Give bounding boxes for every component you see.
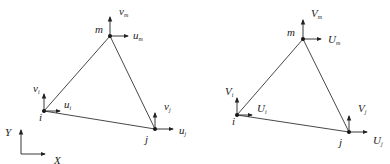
node-i-label: i xyxy=(232,115,235,127)
u-j-label: uj xyxy=(179,124,187,137)
node-j-label: j xyxy=(143,133,148,145)
u-m-label: um xyxy=(133,29,144,42)
v-m-label: vm xyxy=(119,5,129,18)
triangle-edges xyxy=(44,36,155,129)
U-j-label: Uj xyxy=(373,134,383,147)
U-m-label: Um xyxy=(328,33,341,46)
y-axis-label: Y xyxy=(5,126,13,138)
node-m-label: m xyxy=(287,26,295,38)
triangle-edges xyxy=(237,39,349,132)
node-j-label: j xyxy=(337,136,342,148)
node-i-label: i xyxy=(39,111,42,123)
v-j-label: vj xyxy=(164,100,171,113)
V-j-label: Vj xyxy=(358,102,367,115)
x-axis-label: X xyxy=(53,154,62,164)
U-i-label: Ui xyxy=(257,102,267,115)
global-element-diagram: m i j Vm Um Vi Ui Vj Uj xyxy=(225,7,383,148)
V-i-label: Vi xyxy=(225,85,234,98)
triangle-element-diagram: m i j vm um vi ui vj uj Y X m i j Vm Um … xyxy=(0,0,390,164)
v-i-label: vi xyxy=(33,82,40,95)
local-element-diagram: m i j vm um vi ui vj uj Y X xyxy=(5,5,187,164)
node-m-label: m xyxy=(95,23,103,35)
u-i-label: ui xyxy=(64,98,72,111)
V-m-label: Vm xyxy=(311,7,323,20)
